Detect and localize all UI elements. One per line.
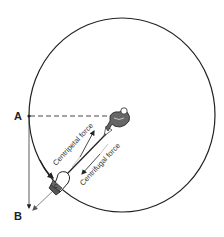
hammer-ball: C [49, 172, 70, 195]
centripetal-force-label: Centripetal force [51, 121, 95, 167]
hammer-label: C [54, 183, 58, 189]
hammer-throw-diagram: C Centripetal force Centrifugal force A … [0, 0, 224, 237]
point-b-label: B [14, 210, 22, 222]
thrower-head [121, 108, 127, 114]
thrower-figure [106, 108, 130, 131]
point-a-label: A [14, 110, 22, 122]
